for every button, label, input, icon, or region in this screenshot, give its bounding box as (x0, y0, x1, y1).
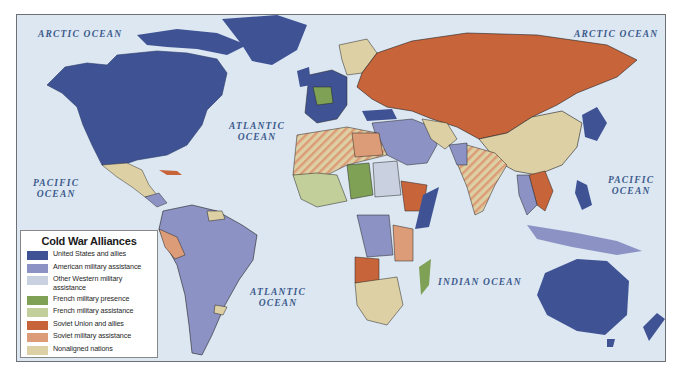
legend-swatch (27, 264, 48, 273)
region-greenland (222, 15, 307, 65)
region-australia (537, 259, 629, 335)
region-uk (297, 67, 311, 87)
region-tasmania (607, 339, 615, 347)
region-south-america (159, 205, 257, 355)
region-madagascar (419, 259, 431, 295)
legend-label: Nonaligned nations (53, 345, 113, 354)
region-pakistan (449, 143, 467, 165)
legend-item-american-assistance: American military assistance (27, 263, 151, 273)
legend-label: United States and allies (53, 250, 126, 259)
region-cuba (159, 170, 182, 175)
legend-item-us-allies: United States and allies (27, 250, 151, 260)
legend-title: Cold War Alliances (27, 235, 151, 247)
legend-swatch (27, 296, 48, 305)
legend-label: American military assistance (53, 263, 141, 272)
ocean-label-arctic-east: ARCTIC OCEAN (574, 29, 658, 40)
region-zaire (357, 215, 393, 257)
legend-item-other-western-assistance: Other Western military assistance (27, 275, 151, 292)
legend-swatch (27, 321, 48, 330)
legend-swatch (27, 346, 48, 355)
legend-swatch (27, 308, 48, 317)
region-new-zealand (643, 313, 665, 341)
region-guianas (207, 211, 225, 221)
region-southern-africa (355, 277, 403, 325)
region-mexico (102, 163, 157, 197)
region-turkey (362, 109, 397, 121)
region-east-africa (393, 225, 413, 261)
ocean-label-arctic-west: ARCTIC OCEAN (38, 29, 122, 40)
ocean-label-pacific-west: PACIFIC OCEAN (33, 178, 79, 200)
region-chad (347, 163, 373, 199)
ocean-label-indian: INDIAN OCEAN (438, 277, 522, 288)
legend-label: Soviet Union and allies (53, 320, 124, 329)
legend-swatch (27, 333, 48, 342)
region-indonesia (527, 225, 642, 255)
legend-label: French military assistance (53, 307, 133, 316)
region-uruguay (214, 305, 227, 315)
region-north-america (47, 51, 227, 167)
legend-label: Other Western military assistance (53, 275, 133, 292)
legend-item-french-presence: French military presence (27, 295, 151, 305)
region-west-africa (293, 173, 347, 207)
region-angola (355, 257, 379, 283)
ocean-label-atlantic-south: ATLANTIC OCEAN (250, 287, 306, 309)
legend-item-soviet-assistance: Soviet military assistance (27, 332, 151, 342)
ocean-label-atlantic-north: ATLANTIC OCEAN (229, 121, 285, 143)
legend-item-french-assistance: French military assistance (27, 307, 151, 317)
region-japan (582, 107, 607, 141)
region-sudan (373, 161, 401, 197)
legend-item-soviet-allies: Soviet Union and allies (27, 320, 151, 330)
legend-label: French military presence (53, 295, 129, 304)
legend-item-nonaligned: Nonaligned nations (27, 345, 151, 355)
legend-label: Soviet military assistance (53, 332, 131, 341)
ocean-label-pacific-east: PACIFIC OCEAN (608, 175, 654, 197)
region-egypt (352, 133, 383, 157)
region-philippines (575, 180, 592, 210)
legend-swatch (27, 276, 48, 285)
map-legend: Cold War Alliances United States and all… (20, 230, 158, 358)
legend-swatch (27, 251, 48, 260)
